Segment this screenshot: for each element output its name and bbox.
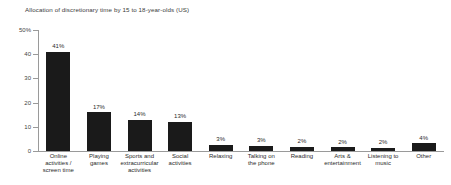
y-axis-tick-label: 40: [0, 51, 31, 57]
bar: [412, 143, 436, 151]
x-axis-label-line: Other: [399, 153, 448, 160]
x-axis-category-labels: Onlineactivities /screen timePlayinggame…: [38, 153, 444, 185]
bar-value-label: 13%: [156, 113, 204, 119]
x-axis-label-line: the phone: [237, 160, 286, 167]
bar-column: 2%: [331, 30, 355, 151]
x-axis-label-line: screen time: [34, 167, 83, 174]
bar: [290, 147, 314, 151]
bar: [371, 148, 395, 151]
bar-column: 4%: [412, 30, 436, 151]
bar-value-label: 4%: [400, 135, 448, 141]
bar: [168, 122, 192, 151]
bar: [209, 145, 233, 151]
y-axis-tick-label: 20: [0, 100, 31, 106]
bar-series: 41%17%14%13%3%3%2%2%2%4%: [38, 30, 444, 151]
chart-title: Allocation of discretionary time by 15 t…: [25, 6, 189, 13]
bar: [87, 112, 111, 151]
y-axis-tick-label: 10: [0, 124, 31, 130]
bar-column: 13%: [168, 30, 192, 151]
bar: [249, 146, 273, 151]
y-axis-tick: [33, 151, 38, 152]
bar: [128, 120, 152, 151]
bar-column: 17%: [87, 30, 111, 151]
bar-column: 14%: [128, 30, 152, 151]
bar-column: 3%: [209, 30, 233, 151]
x-axis-line: [38, 151, 444, 152]
x-axis-label: Other: [399, 153, 448, 160]
bar: [331, 147, 355, 151]
bar-chart: Allocation of discretionary time by 15 t…: [0, 0, 451, 185]
bar: [46, 52, 70, 151]
bar-value-label: 17%: [75, 104, 123, 110]
bar-column: 2%: [290, 30, 314, 151]
bar-column: 2%: [371, 30, 395, 151]
bar-value-label: 41%: [34, 43, 82, 49]
x-axis-label-line: activities: [156, 160, 205, 167]
x-axis-label-line: activities: [115, 167, 164, 174]
bar-column: 41%: [46, 30, 70, 151]
y-axis-tick-label: 0: [0, 148, 31, 154]
y-axis-tick-label: 50%: [0, 27, 31, 33]
y-axis-tick-label: 30: [0, 75, 31, 81]
bar-column: 3%: [249, 30, 273, 151]
x-axis-label-line: music: [359, 160, 408, 167]
